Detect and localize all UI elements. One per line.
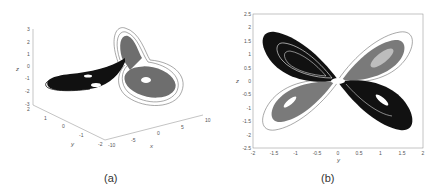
z-axis-label: z xyxy=(15,66,19,72)
svg-text:1.5: 1.5 xyxy=(399,150,406,156)
svg-text:1: 1 xyxy=(27,51,30,57)
chart-panel-a: 3 2 1 0 -1 -2 -3 z 2 1 0 -1 -2 y -10 -5 … xyxy=(0,0,220,196)
svg-text:2.5: 2.5 xyxy=(244,11,251,17)
svg-text:0: 0 xyxy=(248,78,251,84)
svg-text:-1: -1 xyxy=(247,105,252,111)
z-ticks: 3 2 1 0 -1 -2 -3 xyxy=(25,26,30,107)
svg-text:5: 5 xyxy=(181,124,184,130)
svg-text:-5: -5 xyxy=(131,137,136,143)
svg-text:1: 1 xyxy=(379,150,382,156)
svg-text:-1: -1 xyxy=(293,150,298,156)
y-axis-label: y xyxy=(70,141,75,147)
svg-text:0: 0 xyxy=(337,150,340,156)
chart-2d-plot: 2.5 2 1.5 1 0.5 0 -0.5 -1 -1.5 -2 -2.5 z… xyxy=(220,0,445,196)
x-ticks: -10 -5 0 5 10 xyxy=(108,117,211,148)
z-ticks: 2.5 2 1.5 1 0.5 0 -0.5 -1 -1.5 -2 -2.5 xyxy=(242,11,251,151)
svg-text:1.5: 1.5 xyxy=(244,38,251,44)
svg-text:2: 2 xyxy=(27,39,30,45)
trajectory-gray-series xyxy=(114,28,183,106)
y-axis xyxy=(33,105,105,140)
svg-text:1: 1 xyxy=(44,115,47,121)
svg-text:10: 10 xyxy=(205,117,211,123)
svg-text:-1.5: -1.5 xyxy=(242,118,251,124)
x-axis xyxy=(105,115,203,140)
svg-text:3: 3 xyxy=(27,26,30,32)
svg-text:0: 0 xyxy=(157,130,160,136)
svg-text:2: 2 xyxy=(27,106,30,112)
trajectory-black-series xyxy=(46,58,125,91)
svg-text:1: 1 xyxy=(248,51,251,57)
z-axis-label: z xyxy=(235,78,239,84)
svg-text:-2: -2 xyxy=(247,132,252,138)
svg-text:-0.5: -0.5 xyxy=(313,150,322,156)
svg-text:2: 2 xyxy=(422,150,425,156)
chart-panel-b: 2.5 2 1.5 1 0.5 0 -0.5 -1 -1.5 -2 -2.5 z… xyxy=(220,0,445,196)
svg-text:-1.5: -1.5 xyxy=(270,150,279,156)
svg-text:0: 0 xyxy=(27,63,30,69)
svg-text:-10: -10 xyxy=(108,142,115,148)
caption-a: (a) xyxy=(104,172,117,184)
svg-text:-0.5: -0.5 xyxy=(242,91,251,97)
svg-text:-1: -1 xyxy=(79,132,84,138)
svg-text:2: 2 xyxy=(248,24,251,30)
svg-text:0: 0 xyxy=(62,123,65,129)
svg-text:-2: -2 xyxy=(98,141,103,147)
svg-text:-2: -2 xyxy=(251,150,256,156)
y-ticks: 2 1 0 -1 -2 xyxy=(27,106,103,147)
svg-text:-1: -1 xyxy=(25,75,30,81)
caption-b: (b) xyxy=(321,172,334,184)
x-axis-label: x xyxy=(149,143,154,149)
svg-text:0.5: 0.5 xyxy=(356,150,363,156)
center-gap xyxy=(331,78,345,84)
y-axis-label: y xyxy=(336,157,341,163)
svg-text:-2: -2 xyxy=(25,88,30,94)
chart-3d-plot: 3 2 1 0 -1 -2 -3 z 2 1 0 -1 -2 y -10 -5 … xyxy=(0,0,220,196)
svg-text:0.5: 0.5 xyxy=(244,65,251,71)
y-ticks: -2 -1.5 -1 -0.5 0 0.5 1 1.5 2 xyxy=(251,150,425,156)
